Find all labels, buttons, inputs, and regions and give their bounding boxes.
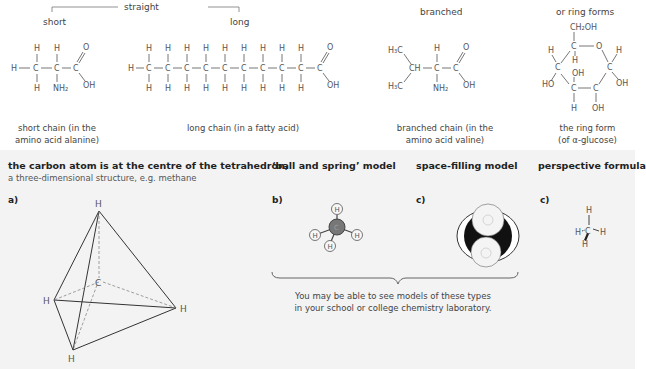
svg-text:H: H (128, 64, 134, 73)
svg-text:H: H (180, 304, 187, 314)
glucose-ring-structure: CH₂OH C O C H OH C OH C H OH C HO (542, 20, 635, 120)
svg-text:H: H (165, 84, 171, 93)
svg-text:C: C (593, 84, 599, 93)
svg-text:O: O (83, 43, 89, 52)
svg-text:H: H (203, 84, 209, 93)
svg-text:C: C (279, 64, 285, 73)
svg-text:C: C (434, 64, 440, 73)
caption-short-chain: short chain (in the amino acid alanine) (2, 122, 112, 146)
svg-text:OH: OH (616, 79, 628, 88)
svg-text:H: H (355, 232, 360, 240)
svg-text:H: H (582, 240, 588, 249)
svg-text:H: H (616, 46, 622, 55)
svg-text:H: H (575, 228, 581, 237)
svg-text:H: H (241, 84, 247, 93)
perspective-formula-heading: perspective formula (538, 160, 646, 171)
svg-text:OH: OH (83, 81, 95, 90)
svg-text:O: O (327, 43, 333, 52)
svg-text:OH: OH (327, 81, 339, 90)
svg-text:H: H (146, 84, 152, 93)
svg-text:H: H (260, 44, 266, 53)
svg-text:OH: OH (463, 81, 475, 90)
svg-text:C: C (555, 63, 561, 72)
part-c-space-label: c) (416, 195, 425, 205)
svg-text:H: H (68, 354, 75, 364)
svg-text:C: C (298, 64, 304, 73)
svg-text:C: C (165, 64, 171, 73)
svg-text:C: C (317, 64, 323, 73)
svg-text:CH: CH (409, 64, 421, 73)
alanine-structure: H C C C H H H NH₂ O OH (5, 38, 100, 98)
svg-text:C: C (334, 224, 339, 232)
svg-text:H: H (548, 46, 554, 55)
models-curly-brace (270, 270, 520, 286)
caption-branched-chain: branched chain (in the amino acid valine… (385, 122, 505, 146)
svg-text:H: H (298, 44, 304, 53)
svg-text:C: C (33, 64, 39, 73)
svg-text:H: H (54, 44, 60, 53)
svg-text:NH₂: NH₂ (53, 84, 68, 93)
svg-text:H: H (95, 199, 102, 209)
svg-text:C: C (453, 64, 459, 73)
svg-text:H: H (434, 44, 440, 53)
fatty-acid-structure: H C H H C H H C H H C H H (128, 38, 358, 98)
svg-text:H: H (222, 84, 228, 93)
svg-text:H: H (184, 84, 190, 93)
ball-and-spring-model: C HH HH (300, 200, 370, 260)
svg-text:H₃C: H₃C (388, 82, 403, 91)
svg-text:OH: OH (572, 69, 584, 78)
svg-text:H₃C: H₃C (388, 46, 403, 55)
ball-spring-heading: ‘ball and spring’ model (272, 160, 396, 171)
svg-text:C: C (241, 64, 247, 73)
svg-text:H: H (43, 296, 50, 306)
svg-text:H: H (298, 84, 304, 93)
valine-structure: H₃C H₃C CH C C H NH₂ O OH (388, 38, 493, 98)
svg-text:H: H (328, 243, 333, 251)
svg-text:C: C (146, 64, 152, 73)
part-b-label: b) (272, 195, 283, 205)
perspective-formula: H C H H H (575, 205, 635, 265)
svg-text:H: H (572, 56, 578, 65)
caption-ring-form: the ring form (of α-glucose) (540, 122, 635, 146)
svg-text:C: C (54, 64, 60, 73)
tetrahedron-diagram: H C H H H (0, 190, 240, 369)
caption-long-chain: long chain (in a fatty acid) (178, 122, 308, 134)
svg-text:C: C (184, 64, 190, 73)
label-straight: straight (124, 2, 159, 12)
tetrahedron-heading: the carbon atom is at the centre of the … (8, 160, 288, 171)
label-long: long (230, 17, 249, 27)
svg-text:O: O (596, 42, 602, 51)
svg-text:H: H (34, 84, 40, 93)
svg-text:OH: OH (592, 104, 604, 113)
label-branched: branched (420, 7, 463, 17)
svg-text:H: H (184, 44, 190, 53)
part-c-perspective-label: c) (540, 195, 549, 205)
tetrahedron-subheading: a three-dimensional structure, e.g. meth… (8, 173, 197, 183)
svg-text:O: O (463, 43, 469, 52)
svg-text:CH₂OH: CH₂OH (570, 23, 597, 32)
svg-text:H: H (586, 206, 592, 215)
svg-text:C: C (222, 64, 228, 73)
svg-text:NH₂: NH₂ (433, 84, 448, 93)
svg-text:H: H (600, 228, 606, 237)
svg-text:C: C (607, 63, 613, 72)
space-filling-model (448, 196, 528, 276)
svg-text:H: H (260, 84, 266, 93)
svg-text:H: H (279, 84, 285, 93)
svg-text:C: C (260, 64, 266, 73)
svg-text:H: H (146, 44, 152, 53)
label-short: short (43, 17, 66, 27)
svg-text:C: C (95, 278, 101, 288)
svg-text:HO: HO (542, 80, 554, 89)
svg-text:H: H (241, 44, 247, 53)
svg-text:H: H (222, 44, 228, 53)
models-note: You may be able to see models of these t… (288, 290, 498, 314)
svg-text:C: C (571, 84, 577, 93)
label-ring-forms: or ring forms (556, 7, 614, 17)
svg-text:H: H (11, 64, 17, 73)
svg-text:C: C (571, 42, 577, 51)
svg-text:H: H (203, 44, 209, 53)
svg-text:H: H (165, 44, 171, 53)
svg-text:H: H (313, 232, 318, 240)
svg-text:C: C (73, 64, 79, 73)
